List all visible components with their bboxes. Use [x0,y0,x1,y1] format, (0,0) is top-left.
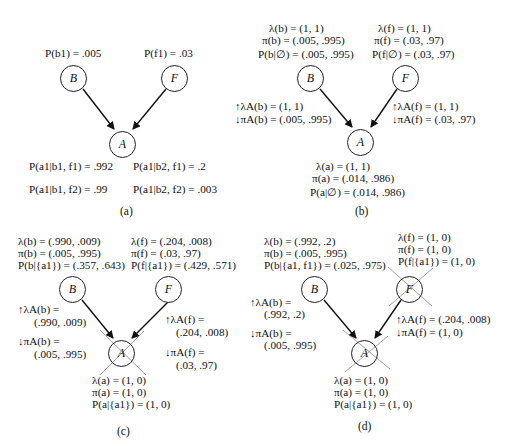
node-a: A [347,129,374,156]
node-b: B [297,65,324,92]
edge-b-to-a [83,89,114,129]
msg-pi-f: ↓πA(f) = [165,346,205,358]
panel-caption: (b) [355,205,368,217]
msg-pi-f: ↓πA(f) = (.03, .97) [392,113,475,125]
msg-pi-b-value: (.005, .995) [34,348,86,360]
panel-caption: (c) [117,425,130,437]
edge-b-to-a [324,300,356,338]
a-pi: π(a) = (.014, .986) [312,172,394,184]
f-posterior: P(f|{a1}) = (.429, .571) [131,259,236,271]
f-pi: π(f) = (1, 0) [398,243,451,255]
f-pi: π(f) = (.03, .97) [131,247,201,259]
node-a: A [109,131,136,158]
f-posterior: P(f|{a1}) = (1, 0) [398,255,475,267]
f-lambda: λ(f) = (.204, .008) [131,235,212,247]
node-b: B [301,276,328,303]
cpt-entry: P(a1|b1, f2) = .99 [29,183,107,195]
a-posterior: P(a|{a1}) = (1, 0) [92,398,170,410]
prior-f: P(f1) = .03 [144,47,193,59]
f-pi: π(f) = (.03, .97) [374,34,444,46]
msg-lambda-f: ↑λA(f) = [165,313,204,325]
a-posterior: P(a|∅) = (.014, .986) [310,186,405,198]
node-f: F [155,276,182,303]
f-posterior: P(f|∅) = (.03, .97) [372,48,455,60]
cpt-entry: P(a1|b1, f1) = .992 [29,160,113,172]
b-pi: π(b) = (.005, .995) [264,247,347,259]
node-f-instantiated: F [396,276,423,303]
b-lambda: λ(b) = (.992, .2) [264,235,335,247]
a-lambda: λ(a) = (1, 0) [92,374,146,386]
b-posterior: P(b|∅) = (.005, .995) [258,48,354,60]
msg-pi-f-value: (.03, .97) [176,359,217,371]
a-posterior: P(a|{a1}) = (1, 0) [334,398,412,410]
msg-pi-b-value: (.005, .995) [264,339,316,351]
a-lambda: λ(a) = (1, 0) [334,374,388,386]
msg-lambda-b-value: (.990, .009) [34,316,86,328]
msg-lambda-b: ↑λA(b) = [250,296,291,308]
prior-b: P(b1) = .005 [45,47,101,59]
a-pi: π(a) = (1, 0) [92,386,146,398]
msg-lambda-b: ↑λA(b) = [18,303,59,315]
b-posterior: P(b|{a1, f1}) = (.025, .975) [264,259,386,271]
node-a-instantiated: A [351,340,378,367]
node-b: B [60,65,87,92]
node-f: F [161,65,188,92]
b-pi: π(b) = (.005, .995) [18,247,101,259]
node-b: B [59,276,86,303]
msg-lambda-f: ↑λA(f) = (.204, .008) [396,313,490,325]
cpt-entry: P(a1|b2, f2) = .003 [133,183,217,195]
msg-pi-b: ↓πA(b) = [18,335,59,347]
edge-f-to-a [133,89,166,129]
msg-pi-f: ↓πA(f) = (1, 0) [396,326,463,338]
msg-lambda-b: ↑λA(b) = (1, 1) [235,100,303,112]
a-pi: π(a) = (1, 0) [334,386,388,398]
b-lambda: λ(b) = (1, 1) [269,22,324,34]
panel-caption: (d) [358,420,371,432]
edge-b-to-a [82,300,113,338]
b-lambda: λ(b) = (.990, .009) [18,235,101,247]
panel-caption: (a) [120,205,133,217]
msg-lambda-f: ↑λA(f) = (1, 1) [392,100,458,112]
b-posterior: P(b|{a1}) = (.357, .643) [18,259,125,271]
msg-pi-b: ↓πA(b) = (.005, .995) [235,113,331,125]
node-a-instantiated: A [108,340,135,367]
f-lambda: λ(f) = (1, 1) [378,22,431,34]
node-f: F [392,65,419,92]
cpt-entry: P(a1|b2, f1) = .2 [133,160,206,172]
b-pi: π(b) = (.005, .995) [262,34,345,46]
msg-lambda-f-value: (.204, .008) [176,326,228,338]
f-lambda: λ(f) = (1, 0) [398,231,451,243]
msg-pi-b: ↓πA(b) = [250,327,291,339]
msg-lambda-b-value: (.992, .2) [264,308,305,320]
a-lambda: λ(a) = (1, 1) [316,160,370,172]
